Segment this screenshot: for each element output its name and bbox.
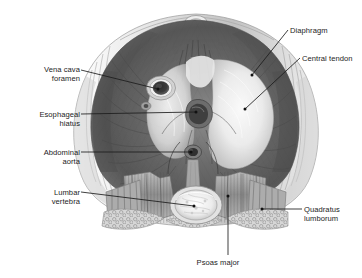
label-vena-cava-foramen-line2: foramen: [14, 74, 80, 83]
label-psoas-major: Psoas major: [178, 258, 258, 267]
diaphragm-illustration: [0, 0, 362, 278]
label-central-tendon: Central tendon: [302, 54, 362, 63]
label-vena-cava-foramen: Vena cava foramen: [14, 65, 80, 84]
label-quadratus-lumborum-line1: Quadratus: [304, 205, 362, 214]
label-diaphragm: Diaphragm: [290, 26, 360, 35]
label-esophageal-hiatus-line1: Esophageal: [6, 110, 80, 119]
label-abdominal-aorta-line1: Abdominal: [6, 148, 80, 157]
label-vena-cava-foramen-line1: Vena cava: [14, 65, 80, 74]
label-lumbar-vertebra-line1: Lumbar: [10, 188, 80, 197]
figure-page: Vena cava foramen Esophageal hiatus Abdo…: [0, 0, 362, 278]
label-psoas-major-line1: Psoas major: [178, 258, 258, 267]
label-diaphragm-line1: Diaphragm: [290, 26, 360, 35]
label-quadratus-lumborum: Quadratus lumborum: [304, 205, 362, 224]
label-central-tendon-line1: Central tendon: [302, 54, 362, 63]
label-abdominal-aorta-line2: aorta: [6, 157, 80, 166]
label-quadratus-lumborum-line2: lumborum: [304, 214, 362, 223]
label-abdominal-aorta: Abdominal aorta: [6, 148, 80, 167]
label-esophageal-hiatus: Esophageal hiatus: [6, 110, 80, 129]
label-lumbar-vertebra: Lumbar vertebra: [10, 188, 80, 207]
lumbar-vertebra: [170, 186, 222, 224]
label-esophageal-hiatus-line2: hiatus: [6, 119, 80, 128]
label-lumbar-vertebra-line2: vertebra: [10, 197, 80, 206]
